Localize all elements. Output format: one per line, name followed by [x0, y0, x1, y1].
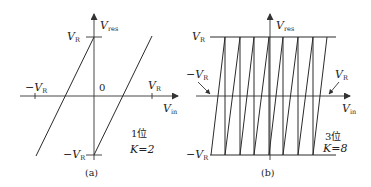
transfer-segment-1 — [36, 37, 94, 156]
x-axis-label: Vin — [342, 102, 356, 116]
annotation-k: K=2 — [129, 143, 154, 156]
caption-b: (b) — [261, 167, 275, 178]
tick-label-bottom: −VR — [186, 148, 209, 162]
tick-label-top: VR — [67, 30, 81, 44]
panel-b: Vres VR −VR −VR VR Vin 3位 K=8 (b) — [186, 14, 356, 178]
left-pointer-arrow — [198, 82, 210, 94]
tick-label-left: −VR — [25, 81, 48, 95]
origin-label: 0 — [99, 82, 105, 93]
y-axis-label: Vres — [100, 19, 118, 33]
tick-label-top: VR — [192, 30, 206, 44]
annotation-k: K=8 — [322, 142, 347, 155]
tick-label-right: VR — [148, 79, 162, 93]
y-axis-label: Vres — [276, 19, 294, 33]
diagram-canvas: Vres VR −VR −VR VR 0 Vin 1位 K=2 (a) Vres… — [0, 0, 371, 187]
tick-label-left: −VR — [186, 68, 209, 82]
tick-label-bottom: −VR — [63, 148, 86, 162]
right-pointer-arrow — [329, 82, 339, 94]
annotation-bits: 1位 — [131, 127, 147, 139]
annotation-bits: 3位 — [325, 130, 341, 142]
panel-a: Vres VR −VR −VR VR 0 Vin 1位 K=2 (a) — [20, 14, 178, 178]
tick-label-right: VR — [335, 68, 349, 82]
caption-a: (a) — [85, 167, 98, 178]
x-axis-label: Vin — [163, 102, 177, 116]
